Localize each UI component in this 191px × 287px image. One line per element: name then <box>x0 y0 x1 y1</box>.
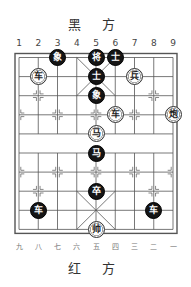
column-label: 三 <box>128 241 142 251</box>
black-piece[interactable]: 士 <box>88 68 105 85</box>
red-side-title: 红 方 <box>0 258 191 277</box>
red-piece[interactable]: 马 <box>88 125 105 142</box>
column-label: 六 <box>70 241 84 251</box>
column-label: 四 <box>108 241 122 251</box>
black-piece[interactable]: 象 <box>49 49 66 66</box>
black-piece[interactable]: 将 <box>88 49 105 66</box>
black-piece[interactable]: 士 <box>107 49 124 66</box>
red-piece[interactable]: 帅 <box>88 221 105 238</box>
black-piece[interactable]: 卒 <box>88 183 105 200</box>
black-piece[interactable]: 车 <box>145 202 162 219</box>
column-label: 一 <box>166 241 180 251</box>
red-piece[interactable]: 炮 <box>165 106 182 123</box>
red-piece[interactable]: 车 <box>30 68 47 85</box>
black-piece[interactable]: 象 <box>88 87 105 104</box>
red-piece[interactable]: 兵 <box>126 68 143 85</box>
column-label: 八 <box>31 241 45 251</box>
black-piece[interactable]: 马 <box>88 145 105 162</box>
red-piece[interactable]: 车 <box>107 106 124 123</box>
column-label: 二 <box>147 241 161 251</box>
black-piece[interactable]: 车 <box>30 202 47 219</box>
column-label: 七 <box>51 241 65 251</box>
column-label: 九 <box>12 241 26 251</box>
column-label: 五 <box>89 241 103 251</box>
